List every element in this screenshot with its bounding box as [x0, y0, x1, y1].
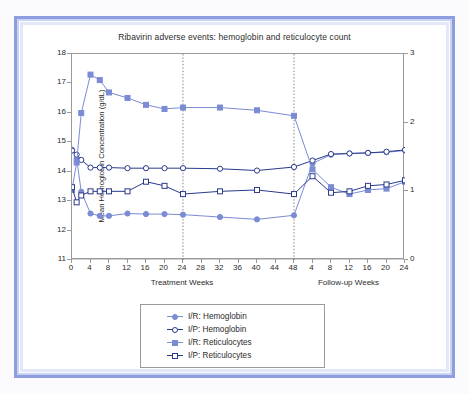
y-tick-left: 11 [44, 254, 66, 263]
x-tick: 8 [98, 263, 118, 272]
x-axis-label-treatment: Treatment Weeks [71, 278, 293, 287]
y-tick-left: 15 [44, 136, 66, 145]
x-tick: 4 [80, 263, 100, 272]
x-tick: 20 [376, 263, 396, 272]
x-tick: 36 [228, 263, 248, 272]
plot-area [71, 53, 404, 259]
chart-legend: I/R: HemoglobinI/P: HemoglobinI/R: Retic… [140, 304, 325, 368]
x-tick: 4 [302, 263, 322, 272]
x-tick: 16 [135, 263, 155, 272]
x-tick: 12 [117, 263, 137, 272]
legend-label: I/R: Reticulocytes [188, 338, 252, 347]
x-tick: 44 [265, 263, 285, 272]
y-tick-left: 16 [44, 107, 66, 116]
legend-label: I/P: Hemoglobin [188, 325, 246, 334]
y-tick-right: 2 [410, 117, 432, 126]
y-tick-left: 14 [44, 166, 66, 175]
x-tick: 0 [61, 263, 81, 272]
legend-item[interactable]: I/P: Hemoglobin [141, 323, 324, 336]
x-axis-label-followup: Follow-up Weeks [293, 278, 404, 287]
x-tick: 40 [246, 263, 266, 272]
legend-item[interactable]: I/R: Reticulocytes [141, 336, 324, 349]
x-tick: 16 [357, 263, 377, 272]
chart-title: Ribavirin adverse events: hemoglobin and… [24, 32, 445, 42]
series-2 [72, 72, 405, 196]
legend-item[interactable]: I/R: Hemoglobin [141, 310, 324, 323]
legend-label: I/P: Reticulocytes [188, 351, 251, 360]
x-tick: 12 [339, 263, 359, 272]
legend-marker-icon [167, 338, 183, 347]
x-tick: 8 [320, 263, 340, 272]
series-1 [72, 147, 405, 173]
y-tick-right: 0 [410, 254, 432, 263]
x-tick: 32 [209, 263, 229, 272]
y-axis-right-label: Reticulocyte Count (% of Red-Blood-Cell … [430, 53, 469, 259]
y-tick-left: 12 [44, 225, 66, 234]
x-tick: 20 [154, 263, 174, 272]
x-tick: 28 [191, 263, 211, 272]
series-0 [72, 147, 405, 222]
x-tick: 24 [172, 263, 192, 272]
series-3 [72, 174, 405, 205]
legend-marker-icon [167, 325, 183, 334]
legend-item[interactable]: I/P: Reticulocytes [141, 349, 324, 362]
chart-page: Ribavirin adverse events: hemoglobin and… [0, 0, 469, 394]
chart-stage: Ribavirin adverse events: hemoglobin and… [24, 26, 445, 368]
legend-marker-icon [167, 312, 183, 321]
y-tick-right: 1 [410, 185, 432, 194]
legend-label: I/R: Hemoglobin [188, 312, 247, 321]
y-tick-right: 3 [410, 48, 432, 57]
x-tick: 48 [283, 263, 303, 272]
y-tick-left: 18 [44, 48, 66, 57]
y-tick-left: 17 [44, 77, 66, 86]
x-tick: 24 [394, 263, 414, 272]
legend-marker-icon [167, 351, 183, 360]
y-tick-left: 13 [44, 195, 66, 204]
